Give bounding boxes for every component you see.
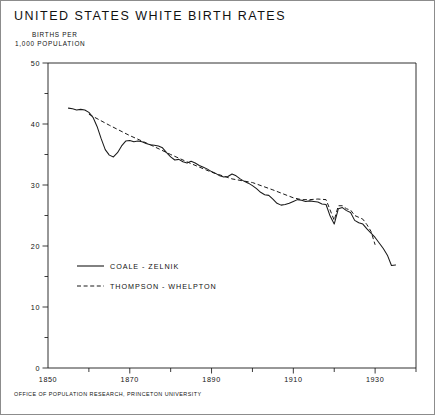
y-axis-tick-label: 30	[31, 181, 40, 190]
axes-group	[48, 63, 416, 368]
chart-legend: COALE - ZELNIKTHOMPSON - WHELPTON	[77, 262, 217, 291]
chart-figure: UNITED STATES WHITE BIRTH RATES BIRTHS P…	[0, 0, 435, 415]
tick-labels-group: 0102030405018501870189019101930	[31, 59, 385, 384]
data-series-coale-zelnik	[68, 108, 395, 265]
source-credit: OFFICE OF POPULATION RESEARCH, PRINCETON…	[14, 391, 202, 397]
ticks-group	[43, 63, 417, 374]
x-axis-tick-label: 1910	[284, 375, 302, 384]
data-series-thompson-whelpton	[89, 114, 375, 245]
legend-label: COALE - ZELNIK	[110, 262, 179, 271]
y-axis-tick-label: 50	[31, 59, 40, 68]
x-axis-tick-label: 1850	[39, 375, 57, 384]
x-axis-tick-label: 1930	[366, 375, 384, 384]
plot-canvas: 0102030405018501870189019101930 COALE - …	[1, 1, 435, 415]
x-axis-tick-label: 1870	[121, 375, 139, 384]
legend-label: THOMPSON - WHELPTON	[110, 282, 217, 291]
y-axis-tick-label: 10	[31, 303, 40, 312]
y-axis-tick-label: 40	[31, 120, 40, 129]
x-axis-tick-label: 1890	[202, 375, 220, 384]
y-axis-tick-label: 0	[35, 364, 40, 373]
plot-frame	[48, 63, 416, 368]
data-series-group	[68, 108, 395, 265]
y-axis-tick-label: 20	[31, 242, 40, 251]
